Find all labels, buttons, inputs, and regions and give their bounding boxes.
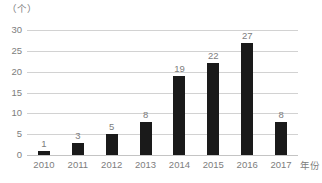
gridline [27,155,298,156]
bar-slot: 19 [163,30,197,155]
y-axis-tick-label: 0 [17,150,22,160]
bar [207,63,219,155]
bar-value-label: 19 [174,64,185,74]
x-axis-tick-label: 2017 [270,159,291,170]
y-axis-tick-label: 30 [11,25,22,35]
bar-chart: （个） 051015202530 13581922278 20102011201… [0,0,322,183]
bar [72,143,84,156]
bar [275,122,287,155]
x-axis-tick-label: 2011 [68,159,88,170]
bar-slot: 8 [264,30,298,155]
bar-value-label: 8 [143,110,148,120]
bar-value-label: 27 [242,31,253,41]
y-axis-tick-label: 15 [11,88,22,98]
bar [38,151,50,155]
bar-slot: 8 [129,30,163,155]
y-axis-tick-label: 20 [11,67,22,77]
x-axis-tick-label: 2012 [101,159,122,170]
x-axis-tick-label: 2015 [203,159,224,170]
bar-slot: 1 [27,30,61,155]
bar-value-label: 3 [75,131,80,141]
bar [173,76,185,155]
x-axis-title: 年份 [300,160,320,171]
y-axis-tick-label: 5 [17,129,22,139]
x-axis-tick-label: 2014 [169,159,190,170]
bar-slot: 22 [196,30,230,155]
bar-slot: 5 [95,30,129,155]
bar-value-label: 1 [41,139,46,149]
y-axis-tick-label: 10 [11,108,22,118]
bar-slot: 3 [61,30,95,155]
x-axis-tick-label: 2013 [135,159,156,170]
bar [140,122,152,155]
y-axis-unit-label: （个） [7,3,37,15]
bar-value-label: 8 [278,110,283,120]
bar [106,134,118,155]
plot-area: 051015202530 13581922278 [27,30,298,155]
x-axis-tick-label: 2016 [237,159,258,170]
x-axis-tick-label: 2010 [33,159,54,170]
bar [241,43,253,156]
bar-series: 13581922278 [27,30,298,155]
bar-slot: 27 [230,30,264,155]
y-axis-tick-label: 25 [11,46,22,56]
bar-value-label: 5 [109,122,114,132]
bar-value-label: 22 [208,51,219,61]
